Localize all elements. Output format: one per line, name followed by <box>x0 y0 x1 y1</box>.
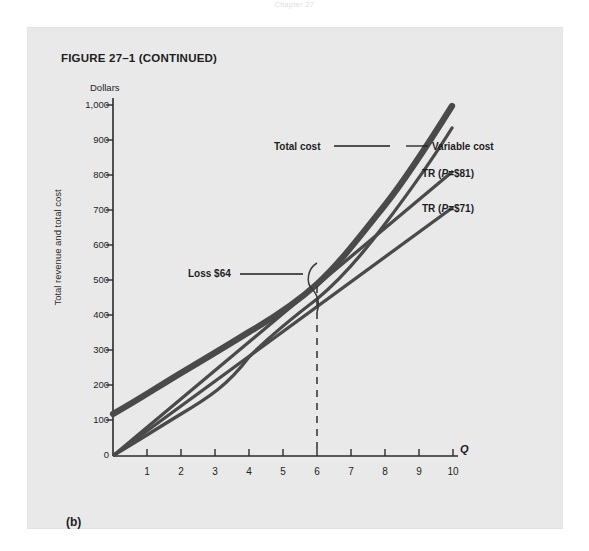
series-label-variable-cost: Variable cost <box>432 141 494 152</box>
series-label-tr-81: TR (P=$81) <box>422 168 474 179</box>
panel-letter-label: (b) <box>66 515 81 529</box>
chart-plot-area <box>28 28 562 528</box>
series-line-tr-81 <box>114 172 452 455</box>
series-label-tr-71: TR (P=$71) <box>422 203 474 214</box>
page-running-header: Chapter 27 <box>0 1 589 9</box>
series-label-total-cost: Total cost <box>274 141 320 152</box>
y-axis-ticks <box>106 105 113 420</box>
x-axis-ticks <box>147 449 453 456</box>
annotation-loss-label: Loss $64 <box>188 268 231 279</box>
series-line-total-cost <box>113 106 452 414</box>
figure-panel: FIGURE 27–1 (CONTINUED) Dollars Total re… <box>28 28 562 528</box>
series-line-tr-71 <box>114 208 452 455</box>
series-line-variable-cost <box>114 128 452 455</box>
